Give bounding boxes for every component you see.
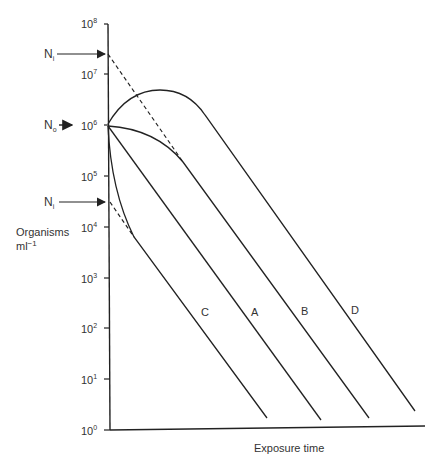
curve-b-label: B <box>301 305 308 317</box>
y-axis-label: Organisms <box>16 226 70 238</box>
curve-a <box>108 126 321 420</box>
x-axis <box>110 426 425 430</box>
svg-text:106: 106 <box>81 119 97 132</box>
svg-text:107: 107 <box>81 68 97 81</box>
svg-text:No: No <box>44 118 57 133</box>
svg-text:104: 104 <box>81 221 97 234</box>
x-axis-label: Exposure time <box>254 442 324 454</box>
curve-d-label: D <box>351 304 359 316</box>
ni-bottom-marker: Ni <box>44 195 105 210</box>
curve-c-label: C <box>201 306 209 318</box>
svg-text:108: 108 <box>81 17 97 30</box>
svg-text:105: 105 <box>81 170 97 183</box>
y-axis-label-unit: ml−1 <box>16 239 37 252</box>
survival-curve-chart: 108 107 106 105 104 103 102 101 100 Orga… <box>0 0 434 462</box>
curve-b <box>108 126 369 418</box>
ni-top-marker: Ni <box>44 47 105 62</box>
svg-text:101: 101 <box>81 373 97 386</box>
y-tick-labels: 108 107 106 105 104 103 102 101 100 <box>81 17 97 437</box>
svg-text:Ni: Ni <box>44 195 55 210</box>
svg-text:Ni: Ni <box>44 47 55 62</box>
svg-text:100: 100 <box>81 424 97 437</box>
svg-text:102: 102 <box>81 322 97 335</box>
curve-a-label: A <box>251 306 259 318</box>
no-marker: No <box>44 118 72 133</box>
svg-text:103: 103 <box>81 272 97 285</box>
